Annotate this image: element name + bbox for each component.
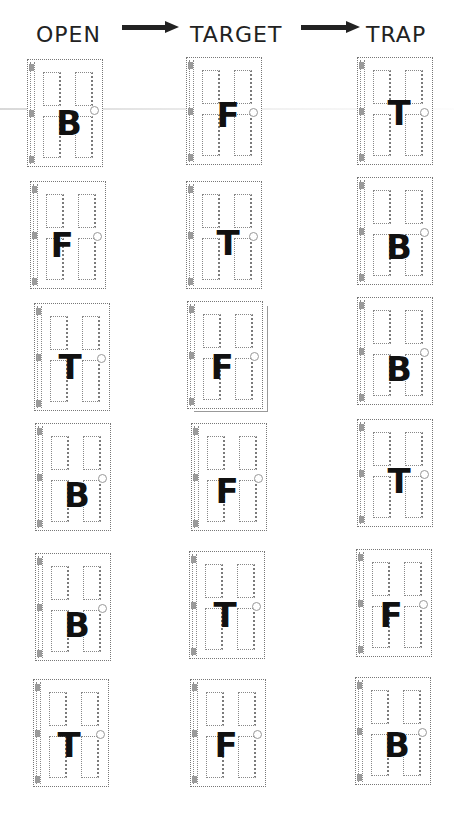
hinge-icon	[37, 558, 42, 565]
hinge-icon	[32, 186, 37, 193]
door-letter: F	[187, 98, 261, 132]
door-target-row-5: T	[189, 551, 265, 659]
hinge-icon	[358, 554, 363, 561]
door-open-row-4: B	[35, 423, 111, 531]
door-letter: T	[34, 728, 108, 762]
door-panel	[83, 436, 101, 470]
door-panel	[405, 310, 423, 344]
hinge-icon	[357, 682, 362, 689]
door-open-row-6: T	[33, 679, 109, 787]
hinge-icon	[188, 62, 193, 69]
door-target-row-6: F	[190, 679, 266, 787]
door-trap-row-3: B	[357, 297, 433, 405]
door-panel	[404, 562, 422, 596]
hinge-icon	[359, 62, 364, 69]
door-panel	[49, 692, 67, 726]
door-panel	[43, 72, 61, 106]
arrow-right-icon	[122, 21, 179, 33]
door-letter: B	[36, 478, 110, 512]
door-panel	[51, 566, 69, 600]
door-open-row-1: B	[27, 59, 103, 167]
door-target-row-1: F	[186, 57, 262, 165]
door-letter: B	[358, 230, 432, 264]
hinge-icon	[193, 520, 198, 527]
hinge-icon	[29, 64, 34, 71]
hinge-icon	[359, 394, 364, 401]
door-panel	[372, 562, 390, 596]
door-target-row-4: F	[191, 423, 267, 531]
door-letter: T	[187, 226, 261, 260]
door-panel	[78, 194, 96, 228]
door-target-row-3: F	[187, 301, 263, 409]
hinge-icon	[359, 182, 364, 189]
hinge-icon	[189, 306, 194, 313]
door-panel	[238, 692, 256, 726]
door-panel	[373, 310, 391, 344]
column-header-target: TARGET	[190, 20, 282, 50]
door-trap-row-6: B	[355, 677, 431, 785]
hinge-icon	[35, 776, 40, 783]
door-panel	[51, 436, 69, 470]
hinge-icon	[359, 302, 364, 309]
door-panel	[403, 690, 421, 724]
door-panel	[75, 72, 93, 106]
hinge-icon	[358, 646, 363, 653]
hinge-icon	[189, 398, 194, 405]
hinge-icon	[192, 684, 197, 691]
door-trap-row-5: F	[356, 549, 432, 657]
door-panel	[50, 316, 68, 350]
hinge-icon	[36, 308, 41, 315]
hinge-icon	[359, 274, 364, 281]
door-panel	[205, 564, 223, 598]
door-letter: F	[191, 728, 265, 762]
door-letter: B	[36, 608, 110, 642]
door-letter: F	[31, 228, 105, 262]
door-panel	[206, 692, 224, 726]
hinge-icon	[37, 520, 42, 527]
hinge-icon	[193, 428, 198, 435]
column-header-trap: TRAP	[366, 20, 426, 50]
door-panel	[405, 190, 423, 224]
hinge-icon	[191, 556, 196, 563]
door-letter: T	[358, 96, 432, 130]
door-letter: T	[35, 350, 109, 384]
hinge-icon	[37, 650, 42, 657]
arrow-right-icon	[301, 21, 360, 33]
door-panel	[203, 314, 221, 348]
door-open-row-3: T	[34, 303, 110, 411]
hinge-icon	[32, 278, 37, 285]
door-panel	[207, 436, 225, 470]
door-panel	[371, 690, 389, 724]
door-panel	[82, 316, 100, 350]
door-trap-row-2: B	[357, 177, 433, 285]
hinge-icon	[192, 776, 197, 783]
door-panel	[373, 190, 391, 224]
hinge-icon	[188, 278, 193, 285]
door-letter: B	[28, 106, 102, 140]
door-open-row-5: B	[35, 553, 111, 661]
door-letter: F	[357, 598, 431, 632]
hinge-icon	[359, 516, 364, 523]
hinge-icon	[188, 186, 193, 193]
door-letter: T	[358, 464, 432, 498]
hinge-icon	[36, 400, 41, 407]
door-letter: F	[188, 350, 262, 384]
hinge-icon	[359, 154, 364, 161]
door-panel	[81, 692, 99, 726]
hinge-icon	[29, 156, 34, 163]
door-panel	[237, 564, 255, 598]
hinge-icon	[35, 684, 40, 691]
hinge-icon	[191, 648, 196, 655]
door-panel	[46, 194, 64, 228]
door-trap-row-1: T	[357, 57, 433, 165]
hinge-icon	[359, 424, 364, 431]
door-target-row-2: T	[186, 181, 262, 289]
door-panel	[239, 436, 257, 470]
door-open-row-2: F	[30, 181, 106, 289]
door-trap-row-4: T	[357, 419, 433, 527]
door-panel	[235, 314, 253, 348]
door-letter: F	[192, 474, 266, 508]
column-header-open: OPEN	[36, 20, 101, 50]
hinge-icon	[37, 428, 42, 435]
door-letter: B	[358, 352, 432, 386]
